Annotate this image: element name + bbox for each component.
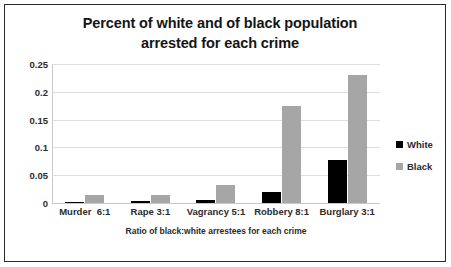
legend-swatch-icon	[396, 141, 403, 148]
chart-title-line-2: arrested for each crime	[40, 34, 400, 54]
bar-white[interactable]	[65, 202, 84, 203]
x-axis-baseline	[52, 203, 380, 204]
bar-black[interactable]	[216, 185, 235, 203]
legend-label: White	[407, 139, 433, 150]
bar-group	[183, 64, 249, 203]
bar-black[interactable]	[85, 195, 104, 203]
bar-white[interactable]	[196, 200, 215, 203]
bar-white[interactable]	[131, 201, 150, 203]
bar-group	[52, 64, 118, 203]
bar-group	[118, 64, 184, 203]
bar-black[interactable]	[282, 106, 301, 203]
legend-entry-black[interactable]: Black	[396, 161, 448, 172]
bar-black[interactable]	[348, 75, 367, 203]
bar-white[interactable]	[328, 160, 347, 203]
chart-container: Percent of white and of black population…	[0, 0, 451, 267]
y-tick-label: 0.1	[2, 142, 48, 153]
legend-label: Black	[407, 161, 432, 172]
chart-title: Percent of white and of black population…	[40, 14, 400, 53]
legend-swatch-icon	[396, 163, 403, 170]
y-tick-label: 0.05	[2, 170, 48, 181]
x-axis-category-labels: Murder 6:1Rape 3:1Vagrancy 5:1Robbery 8:…	[52, 206, 380, 222]
y-tick-label: 0	[2, 198, 48, 209]
y-tick-label: 0.25	[2, 59, 48, 70]
bar-group	[249, 64, 315, 203]
y-axis-tick-labels: 00.050.10.150.20.25	[0, 64, 48, 203]
chart-legend: WhiteBlack	[396, 139, 448, 183]
x-category-label: Burglary 3:1	[314, 206, 380, 217]
chart-title-line-1: Percent of white and of black population	[40, 14, 400, 34]
bar-white[interactable]	[262, 192, 281, 203]
x-axis-title: Ratio of black:white arrestees for each …	[52, 226, 380, 236]
legend-entry-white[interactable]: White	[396, 139, 448, 150]
x-category-label: Murder 6:1	[52, 206, 118, 217]
bar-black[interactable]	[151, 195, 170, 203]
x-category-label: Vagrancy 5:1	[183, 206, 249, 217]
x-category-label: Rape 3:1	[118, 206, 184, 217]
plot-area	[52, 64, 380, 203]
y-tick-label: 0.2	[2, 86, 48, 97]
x-category-label: Robbery 8:1	[249, 206, 315, 217]
bar-group	[314, 64, 380, 203]
y-tick-label: 0.15	[2, 114, 48, 125]
